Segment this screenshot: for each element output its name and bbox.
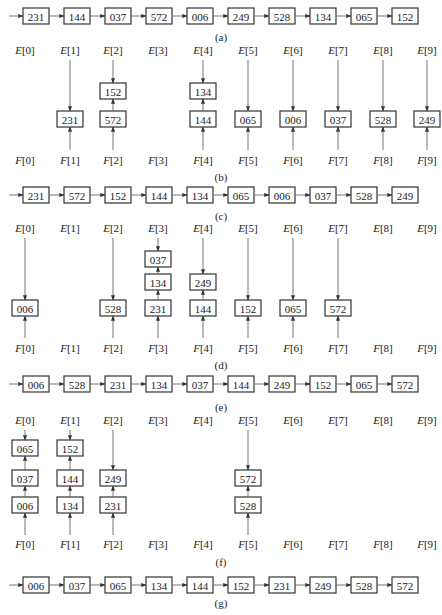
list-node: 249 xyxy=(310,577,336,593)
key-value: 006 xyxy=(17,303,34,315)
queue-node: 037 xyxy=(325,111,351,127)
key-value: 152 xyxy=(315,379,332,391)
queue-node: 152 xyxy=(57,440,83,456)
key-value: 006 xyxy=(274,190,291,202)
list-node: 231 xyxy=(23,8,49,24)
rear-pointer-label: F[2] xyxy=(102,154,123,166)
front-pointer-label: E[0] xyxy=(14,44,35,56)
front-pointer-label: E[5] xyxy=(237,414,258,426)
list-node: 572 xyxy=(392,577,418,593)
list-node: 572 xyxy=(146,8,172,24)
rear-pointer-label: F[5] xyxy=(237,538,258,550)
list-node: 528 xyxy=(351,187,377,203)
list-node: 528 xyxy=(64,376,90,392)
key-value: 572 xyxy=(151,11,168,23)
rear-pointer-label: F[2] xyxy=(102,342,123,354)
key-value: 231 xyxy=(105,500,122,512)
key-value: 572 xyxy=(330,303,347,315)
key-value: 231 xyxy=(28,190,45,202)
queue-node: 037 xyxy=(145,251,171,267)
rear-pointer-label: F[8] xyxy=(372,154,393,166)
queue-node: 231 xyxy=(57,111,83,127)
key-value: 134 xyxy=(151,580,168,592)
key-value: 065 xyxy=(356,11,373,23)
list-node: 006 xyxy=(187,8,213,24)
rear-pointer-label: F[0] xyxy=(14,342,35,354)
list-node: 134 xyxy=(310,8,336,24)
queue-node: 249 xyxy=(190,274,216,290)
key-value: 152 xyxy=(110,190,127,202)
key-value: 528 xyxy=(69,379,86,391)
key-value: 249 xyxy=(274,379,291,391)
front-pointer-label: E[4] xyxy=(192,44,213,56)
list-node: 231 xyxy=(105,376,131,392)
front-pointer-label: E[9] xyxy=(416,222,437,234)
key-value: 065 xyxy=(285,303,302,315)
key-value: 037 xyxy=(110,11,127,23)
key-value: 065 xyxy=(110,580,127,592)
queue-node: 065 xyxy=(280,300,306,316)
list-node: 249 xyxy=(269,376,295,392)
key-value: 006 xyxy=(28,379,45,391)
rear-pointer-label: F[1] xyxy=(59,154,80,166)
key-value: 528 xyxy=(240,500,257,512)
queue-node: 037 xyxy=(12,470,38,486)
list-node: 134 xyxy=(187,187,213,203)
rear-pointer-label: F[6] xyxy=(282,342,303,354)
key-value: 144 xyxy=(69,11,86,23)
panel-caption-f: (f) xyxy=(216,556,227,569)
key-value: 231 xyxy=(62,114,79,126)
key-value: 249 xyxy=(105,473,122,485)
rear-pointer-label: F[9] xyxy=(416,342,437,354)
list-node: 249 xyxy=(228,8,254,24)
panel-caption-e: (e) xyxy=(215,401,228,414)
rear-pointer-label: F[7] xyxy=(327,538,348,550)
front-pointer-label: E[5] xyxy=(237,44,258,56)
radix-sort-figure: 231144037572006249528134065152(a)E[0]F[0… xyxy=(0,0,442,615)
key-value: 249 xyxy=(233,11,250,23)
rear-pointer-label: F[3] xyxy=(147,342,168,354)
list-node: 037 xyxy=(310,187,336,203)
key-value: 006 xyxy=(17,500,34,512)
queue-node: 006 xyxy=(280,111,306,127)
rear-pointer-label: F[2] xyxy=(102,538,123,550)
key-value: 065 xyxy=(356,379,373,391)
rear-pointer-label: F[9] xyxy=(416,538,437,550)
key-value: 144 xyxy=(195,303,212,315)
rear-pointer-label: F[8] xyxy=(372,538,393,550)
key-value: 134 xyxy=(151,379,168,391)
key-value: 006 xyxy=(28,580,45,592)
queue-node: 572 xyxy=(325,300,351,316)
queue-node: 152 xyxy=(235,300,261,316)
queue-node: 572 xyxy=(235,470,261,486)
queue-node: 006 xyxy=(12,300,38,316)
front-pointer-label: E[5] xyxy=(237,222,258,234)
rear-pointer-label: F[4] xyxy=(192,154,213,166)
list-node: 528 xyxy=(269,8,295,24)
key-value: 528 xyxy=(375,114,392,126)
front-pointer-label: E[0] xyxy=(14,414,35,426)
key-value: 231 xyxy=(28,11,45,23)
panel-caption-a: (a) xyxy=(215,31,228,44)
queue-node: 528 xyxy=(235,497,261,513)
list-node: 144 xyxy=(228,376,254,392)
front-pointer-label: E[4] xyxy=(192,222,213,234)
queue-node: 528 xyxy=(370,111,396,127)
rear-pointer-label: F[4] xyxy=(192,342,213,354)
rear-pointer-label: F[0] xyxy=(14,154,35,166)
front-pointer-label: E[9] xyxy=(416,44,437,56)
key-value: 134 xyxy=(150,277,167,289)
key-value: 249 xyxy=(315,580,332,592)
panel-caption-d: (d) xyxy=(215,359,228,372)
front-pointer-label: E[1] xyxy=(59,414,80,426)
key-value: 144 xyxy=(192,580,209,592)
rear-pointer-label: F[1] xyxy=(59,538,80,550)
queue-node: 006 xyxy=(12,497,38,513)
key-value: 065 xyxy=(233,190,250,202)
key-value: 006 xyxy=(192,11,209,23)
key-value: 572 xyxy=(397,580,414,592)
key-value: 572 xyxy=(397,379,414,391)
rear-pointer-label: F[5] xyxy=(237,342,258,354)
list-node: 065 xyxy=(228,187,254,203)
rear-pointer-label: F[6] xyxy=(282,538,303,550)
